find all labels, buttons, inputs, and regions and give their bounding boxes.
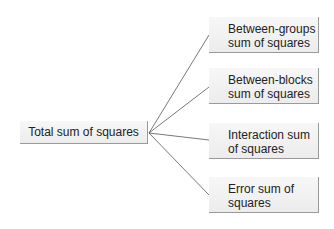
node-label: Between-groups sum of squares (228, 22, 315, 50)
error-node: Error sum of squares (209, 177, 319, 213)
node-label: Total sum of squares (28, 125, 139, 139)
node-label: Error sum of squares (228, 182, 294, 210)
interaction-node: Interaction sum of squares (209, 123, 319, 159)
between-blocks-node: Between-blocks sum of squares (209, 68, 319, 104)
total-sum-of-squares-node: Total sum of squares (20, 121, 148, 144)
node-label: Interaction sum of squares (228, 128, 310, 156)
node-label: Between-blocks sum of squares (228, 73, 313, 101)
between-groups-node: Between-groups sum of squares (209, 17, 319, 53)
